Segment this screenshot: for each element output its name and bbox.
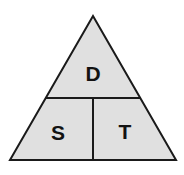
triangle-cell-label-speed: S <box>51 122 65 143</box>
triangle-cell-label-time: T <box>119 121 132 142</box>
triangle-graphic <box>0 0 184 175</box>
triangle-cell-label-distance: D <box>85 63 100 84</box>
formula-triangle-diagram: D S T <box>0 0 184 175</box>
